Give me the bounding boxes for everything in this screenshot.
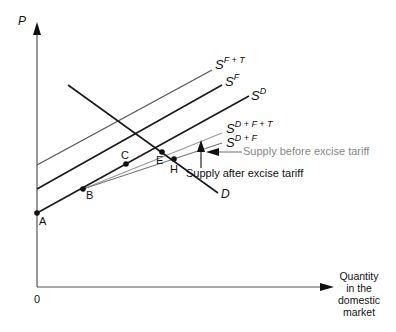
curve-sup: D + F (235, 133, 257, 143)
curve-base: S (251, 88, 260, 103)
origin-label: 0 (34, 293, 40, 305)
curve-sup: D + F + T (235, 119, 273, 129)
x-axis-label-line: Quantity (334, 270, 384, 282)
supply-before-excise-tariff-label: Supply before excise tariff (243, 145, 369, 157)
label-demand: D (221, 187, 230, 201)
point-b-label: B (86, 189, 93, 201)
curve-sup: F (234, 72, 240, 82)
x-axis-label-line: in the (334, 282, 384, 294)
y-axis-arrow-icon (33, 22, 41, 35)
supply-before-arrowhead-icon (206, 148, 219, 156)
curve-sup: D (260, 86, 267, 96)
y-axis-label: P (18, 14, 26, 28)
point-c-label: C (121, 149, 129, 161)
label-supply-foreign-plus-tariff: SF + T (215, 56, 245, 72)
point-h (171, 156, 177, 162)
label-supply-foreign: SF (225, 73, 239, 89)
x-axis-label: Quantity in the domestic market (334, 270, 384, 318)
x-axis-label-line: market (334, 306, 384, 318)
point-e-label: E (156, 154, 163, 166)
curve-base: S (226, 135, 235, 150)
curve-base: S (225, 74, 234, 89)
x-axis-label-line: domestic (334, 294, 384, 306)
x-axis-arrow-icon (320, 283, 334, 291)
supply-after-arrowhead-icon (197, 140, 205, 152)
point-h-label: H (170, 163, 178, 175)
point-b (80, 186, 86, 192)
point-a-label: A (39, 215, 46, 227)
curve-base: S (215, 57, 224, 72)
label-supply-domestic: SD (251, 87, 266, 103)
supply-after-excise-tariff-label: Supply after excise tariff (186, 167, 303, 179)
point-c (123, 161, 129, 167)
curve-sup: F + T (224, 55, 245, 65)
